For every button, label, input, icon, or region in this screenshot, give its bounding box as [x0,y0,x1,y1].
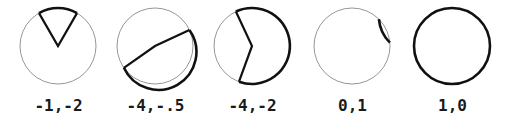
arc-panel-2: -4,-2 [205,0,300,134]
panel-caption-0: -1,-2 [11,96,106,116]
arc-panel-3-graphic [305,4,400,94]
arc-panel-0-graphic [11,4,106,94]
arc-panel-1: -4,-.5 [108,0,203,134]
arc-panel-1-graphic [108,4,203,94]
arc-panel-0: -1,-2 [11,0,106,134]
arc-diagram-figure: -1,-2 -4,-.5 -4,-2 0,1 1,0 [0,0,509,134]
arc-panel-3: 0,1 [305,0,400,134]
highlighted-arc [379,19,390,43]
highlighted-arc [39,8,77,13]
panel-caption-3: 0,1 [305,96,400,116]
sector-radii [236,12,252,82]
panel-caption-4: 1,0 [405,96,500,116]
panel-caption-1: -4,-.5 [108,96,203,116]
arc-panel-4: 1,0 [405,0,500,134]
sector-radii [124,30,189,68]
highlighted-arc [414,8,490,84]
arc-panel-4-graphic [405,4,500,94]
highlighted-arc [236,8,290,84]
arc-panel-2-graphic [205,4,300,94]
panel-caption-2: -4,-2 [205,96,300,116]
sector-radii [39,13,77,46]
